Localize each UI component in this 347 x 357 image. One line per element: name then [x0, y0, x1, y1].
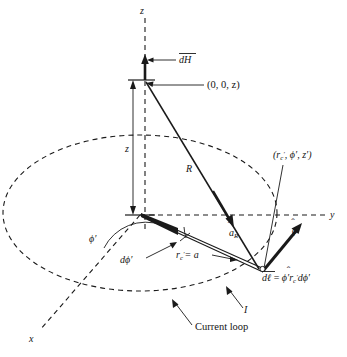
radius-label-leader-line	[212, 255, 232, 259]
current-loop-label: Current loop	[195, 321, 248, 332]
source-point-label-part1: (r	[273, 149, 280, 161]
dl-equation-tail: dϕ′	[298, 272, 311, 283]
radius-label: rc′= a	[176, 249, 199, 261]
radius-label-eq: = a	[184, 249, 198, 260]
source-point-marker	[260, 266, 265, 271]
source-point-label-part2: , ϕ′, z′)	[285, 149, 312, 161]
dH-vector-arrowhead	[141, 54, 149, 64]
field-point-label: (0, 0, z)	[207, 79, 240, 91]
R-label: R	[185, 163, 192, 174]
phi-hat-prime-vector-shaft	[263, 231, 296, 271]
z-distance-label: z	[124, 143, 129, 154]
current-loop-leader-line	[176, 304, 192, 325]
aR-label-sub: R	[233, 232, 239, 239]
phi-hat-prime-hat-icon: ̂	[291, 218, 295, 220]
dl-equation-lhs: dℓ	[262, 272, 271, 283]
current-loop-ellipse	[3, 135, 277, 291]
phi-prime-angle-label: ϕ′	[89, 233, 97, 244]
source-point-label: (rc′, ϕ′, z′)	[273, 149, 312, 161]
dl-equation: dℓ = ϕ′rc′dϕ′	[262, 272, 311, 284]
z-axis-label: z	[139, 5, 144, 16]
current-label: I	[243, 304, 248, 315]
d-phi-prime-label: dϕ′	[120, 254, 133, 265]
aR-unit-vector-shaft	[213, 191, 230, 220]
z-dimension-arrowhead-bottom	[130, 206, 136, 215]
phi-prime-angle-arc	[104, 222, 162, 248]
phi-hat-prime-label: ϕ′	[292, 225, 300, 236]
x-axis-label: x	[28, 333, 34, 344]
d-phi-prime-leader-line	[146, 245, 172, 258]
z-dimension-arrowhead-top	[130, 80, 136, 89]
current-loop-diagram: z y x dH (0, 0, z) z R (rc′, ϕ′, z′) aR …	[0, 0, 347, 357]
dl-equation-phi-hat-icon: ̂	[287, 266, 291, 268]
y-axis-label: y	[329, 209, 335, 220]
dH-label: dH	[179, 54, 192, 65]
current-leader-line	[230, 291, 243, 308]
figure-container: z y x dH (0, 0, z) z R (rc′, ϕ′, z′) aR …	[0, 0, 347, 357]
dH-leader-arrowhead	[147, 57, 154, 62]
